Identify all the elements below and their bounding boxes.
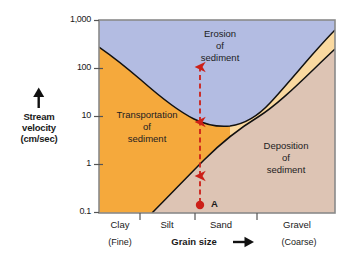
region-label-transportation-line3: sediment xyxy=(105,134,189,144)
region-label-deposition-line1: Deposition xyxy=(244,141,328,151)
x-tick-label-sand: Sand xyxy=(200,220,242,230)
x-tick-label-gravel: Gravel xyxy=(272,220,322,230)
region-label-erosion-line2: of xyxy=(178,41,262,51)
region-label-deposition-line3: sediment xyxy=(244,165,328,175)
y-direction-arrow-icon xyxy=(33,88,44,109)
region-label-erosion-line1: Erosion xyxy=(178,29,262,39)
y-axis-title-line2: velocity xyxy=(4,123,74,133)
x-axis-coarse-note: (Coarse) xyxy=(272,238,326,247)
point-a-marker xyxy=(196,201,204,209)
x-direction-arrow-icon xyxy=(233,237,254,247)
x-axis-ticks xyxy=(140,213,257,220)
y-tick-label-100: 100 xyxy=(53,63,91,72)
x-tick-label-clay: Clay xyxy=(99,220,141,230)
y-tick-label-1000: 1,000 xyxy=(53,15,91,24)
region-label-erosion-line3: sediment xyxy=(178,53,262,63)
region-label-deposition-line2: of xyxy=(244,153,328,163)
point-a-label: A xyxy=(211,199,225,209)
region-label-transportation-line2: of xyxy=(105,122,189,132)
y-axis-title-line1: Stream xyxy=(4,112,74,122)
y-tick-label-1: 1 xyxy=(53,159,91,168)
x-tick-label-silt: Silt xyxy=(146,220,188,230)
region-label-transportation-line1: Transportation xyxy=(105,110,189,120)
y-axis-title-line3: (cm/sec) xyxy=(4,134,74,144)
x-axis-fine-note: (Fine) xyxy=(97,238,143,247)
y-tick-label-0-1: 0.1 xyxy=(53,207,91,216)
hjulstrom-diagram-figure: 1,000 100 10 1 0.1 Stream velocity (cm/s… xyxy=(0,0,348,259)
x-axis-title: Grain size xyxy=(158,237,230,247)
